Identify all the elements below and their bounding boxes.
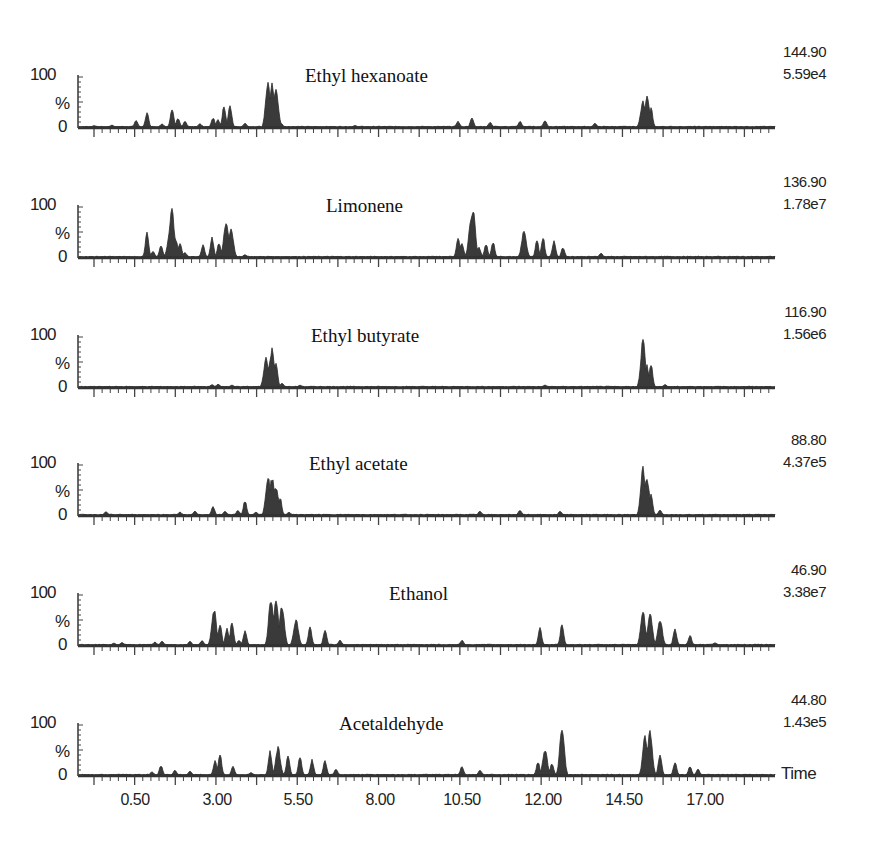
y-label-0: 0 (58, 505, 66, 525)
intensity-value: 5.59e4 (783, 65, 826, 82)
trace (79, 466, 775, 515)
trace (79, 339, 775, 387)
x-tick-label: 5.50 (283, 791, 312, 809)
x-tick-label: 14.50 (605, 791, 643, 809)
x-tick-label: 12.00 (524, 791, 562, 809)
y-label-percent: % (55, 94, 69, 114)
compound-label: Ethanol (389, 583, 448, 605)
trace (79, 208, 775, 257)
x-tick-label: 10.50 (443, 791, 481, 809)
intensity-value: 1.56e6 (783, 325, 826, 342)
compound-label: Ethyl butyrate (311, 325, 419, 347)
trace (79, 601, 775, 645)
y-label-percent: % (55, 742, 69, 762)
panel-ethyl-butyrate (78, 335, 775, 397)
mz-value: 116.90 (784, 303, 826, 320)
y-label-percent: % (55, 224, 69, 244)
y-label-100: 100 (30, 325, 55, 345)
y-label-100: 100 (30, 453, 55, 473)
x-tick-label: 0.50 (120, 791, 149, 809)
compound-label: Limonene (326, 195, 403, 217)
x-tick-label: 8.00 (365, 791, 394, 809)
intensity-value: 3.38e7 (783, 583, 826, 600)
x-axis-title: Time (781, 764, 816, 784)
intensity-value: 4.37e5 (783, 453, 826, 470)
y-label-100: 100 (30, 195, 55, 215)
y-label-percent: % (55, 612, 69, 632)
intensity-value: 1.78e7 (783, 195, 826, 212)
mz-value: 88.80 (791, 431, 826, 448)
intensity-value: 1.43e5 (783, 713, 826, 730)
compound-label: Ethyl hexanoate (305, 65, 428, 87)
panel-ethyl-acetate (78, 463, 775, 525)
mz-value: 44.80 (791, 691, 826, 708)
trace (79, 730, 775, 775)
y-label-0: 0 (58, 247, 66, 267)
y-label-percent: % (55, 354, 69, 374)
compound-label: Ethyl acetate (309, 453, 408, 475)
y-label-percent: % (55, 482, 69, 502)
y-label-100: 100 (30, 713, 55, 733)
x-tick-label: 3.00 (202, 791, 231, 809)
y-label-0: 0 (58, 117, 66, 137)
trace (79, 82, 775, 127)
mz-value: 46.90 (791, 561, 826, 578)
compound-label: Acetaldehyde (339, 713, 443, 735)
y-label-100: 100 (30, 583, 55, 603)
panel-limonene (78, 205, 775, 267)
y-label-100: 100 (30, 65, 55, 85)
y-label-0: 0 (58, 765, 66, 785)
mz-value: 136.90 (783, 173, 826, 190)
y-label-0: 0 (58, 377, 66, 397)
x-tick-label: 17.00 (686, 791, 724, 809)
mz-value: 144.90 (783, 43, 826, 60)
y-label-0: 0 (58, 635, 66, 655)
